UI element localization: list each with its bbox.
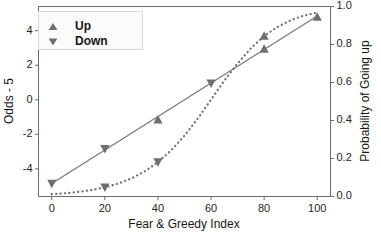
- y2-axis-title: Probability of Going up: [358, 40, 372, 162]
- chart-legend: Up Down: [39, 12, 143, 50]
- y2-tick-label: 0.4: [337, 113, 352, 125]
- y2-tick-label: 0.0: [337, 189, 352, 201]
- y-tick-label: 0: [26, 93, 32, 105]
- y-tick-label: -2: [23, 127, 33, 139]
- y2-tick-label: 0.2: [337, 151, 352, 163]
- y2-tick-label: 1.0: [337, 0, 352, 11]
- x-tick-label: 40: [152, 202, 164, 214]
- y-tick-label: 2: [26, 58, 32, 70]
- x-tick-label: 20: [99, 202, 111, 214]
- legend-label-up: Up: [75, 19, 91, 33]
- odds-probability-scatter-chart: 420-2-4 1.00.80.60.40.20.0 020406080100 …: [0, 0, 381, 233]
- legend-label-down: Down: [75, 34, 108, 48]
- y2-tick-label: 0.6: [337, 75, 352, 87]
- y-tick-label: -4: [23, 162, 33, 174]
- x-tick-label: 60: [205, 202, 217, 214]
- x-tick-label: 100: [308, 202, 326, 214]
- y-axis-title: Odds - 5: [2, 78, 16, 124]
- x-axis-title: Fear & Greedy Index: [128, 217, 239, 231]
- x-tick-label: 80: [258, 202, 270, 214]
- x-tick-label: 0: [49, 202, 55, 214]
- y2-tick-label: 0.8: [337, 37, 352, 49]
- y-tick-label: 4: [26, 24, 32, 36]
- chart-container: 420-2-4 1.00.80.60.40.20.0 020406080100 …: [0, 0, 381, 233]
